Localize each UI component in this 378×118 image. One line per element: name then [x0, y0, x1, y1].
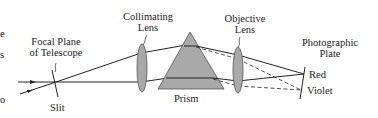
photographic-plate: [300, 67, 305, 99]
edge-fragment: s: [0, 49, 4, 60]
objective-lens: [233, 47, 243, 93]
edge-fragment: e: [0, 28, 5, 39]
edge-fragment: o: [0, 94, 5, 105]
objective-leader: [238, 37, 240, 47]
prism-label: Prism: [174, 93, 199, 104]
violet-label: Violet: [307, 85, 333, 96]
focal-plane-label: Focal Plane of Telescope: [25, 36, 87, 58]
red-label: Red: [309, 69, 326, 80]
collimating-lens-label: Collimating Lens: [118, 11, 178, 33]
spectrograph-diagram: e s o Focal Plane of Telescope Slit Coll…: [0, 0, 378, 118]
photographic-plate-label: Photographic Plate: [298, 37, 362, 59]
collimating-lens: [137, 44, 147, 92]
collimating-leader: [143, 35, 147, 45]
objective-lens-label: Objective Lens: [221, 13, 269, 35]
slit-label: Slit: [50, 102, 65, 113]
prism: [158, 32, 224, 89]
incoming-rays: [18, 82, 56, 94]
focal-plane-leader: [55, 63, 56, 72]
